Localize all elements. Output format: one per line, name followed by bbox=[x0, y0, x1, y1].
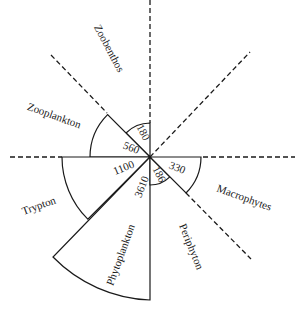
label-zooplankton: Zooplankton bbox=[26, 100, 83, 131]
label-macrophytes: Macrophytes bbox=[215, 182, 273, 213]
dashed-guide-northwest bbox=[51, 55, 107, 113]
label-zoobenthos: Zoobenthos bbox=[92, 22, 127, 74]
dashed-guide-northeast bbox=[150, 52, 250, 157]
label-periphyton: Periphyton bbox=[177, 222, 206, 272]
dashed-guides bbox=[10, 0, 295, 259]
label-trypton: Trypton bbox=[20, 193, 58, 216]
sector-diagram: 180 560 1100 3610 186 330 Zoobenthos Zoo… bbox=[0, 0, 300, 315]
